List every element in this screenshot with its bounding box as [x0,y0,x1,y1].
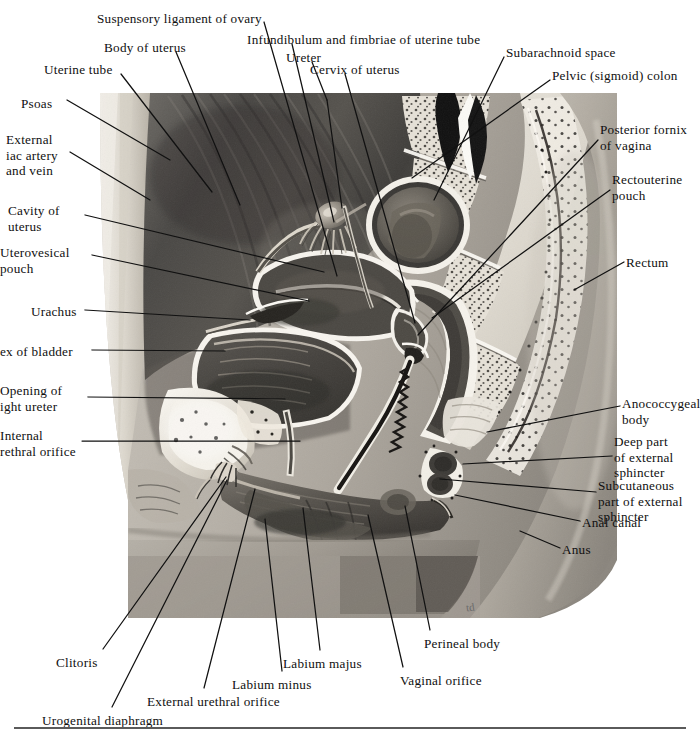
label-uterine-tube: Uterine tube [44,62,113,78]
label-pelvic-sigmoid-colon: Pelvic (sigmoid) colon [552,68,678,84]
label-cervix-of-uterus: Cervix of uterus [310,62,400,78]
label-rectum: Rectum [626,255,669,271]
label-labium-majus: Labium majus [283,656,362,672]
label-apex-of-bladder: ex of bladder [0,344,73,360]
label-infundibulum-and-fimbriae: Infundibulum and fimbriae of uterine tub… [247,32,480,48]
label-anococcygeal-body: Anococcygeal body [622,396,700,427]
label-anal-canal: Anal canal [582,515,641,531]
footer-rule [14,727,686,729]
label-cavity-of-uterus: Cavity of uterus [8,203,60,234]
label-psoas: Psoas [21,96,52,112]
label-clitoris: Clitoris [56,655,98,671]
label-posterior-fornix-of-vagina: Posterior fornix of vagina [600,122,687,153]
label-urachus: Urachus [31,304,77,320]
label-uterovesical-pouch: Uterovesical pouch [0,245,70,276]
label-opening-of-right-ureter: Opening of ight ureter [0,383,62,414]
label-subarachnoid-space: Subarachnoid space [506,45,616,61]
label-perineal-body: Perineal body [424,636,500,652]
label-external-urethral-orifice: External urethral orifice [147,694,280,710]
label-suspensory-ligament-of-ovary: Suspensory ligament of ovary [97,11,262,27]
label-anus: Anus [562,542,591,558]
label-body-of-uterus: Body of uterus [104,40,186,56]
label-labium-minus: Labium minus [232,677,312,693]
label-external-iliac-artery-and-vein: External iac artery and vein [6,132,58,179]
anatomical-figure: Suspensory ligament of ovaryInfundibulum… [0,0,700,736]
label-internal-urethral-orifice: Internal rethral orifice [0,428,76,459]
label-rectouterine-pouch: Rectouterine pouch [612,172,682,203]
label-deep-part-of-external-sphincter: Deep part of external sphincter [614,434,674,481]
artist-signature: td [465,600,475,613]
label-vaginal-orifice: Vaginal orifice [400,673,482,689]
pelvis-sagittal-illustration [0,0,700,736]
